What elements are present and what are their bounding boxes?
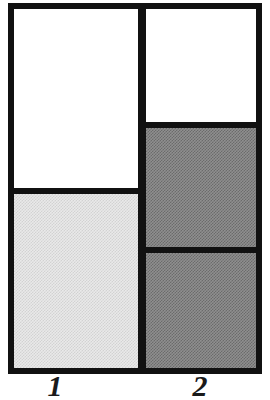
- bar-1-segment-top-white[interactable]: [14, 9, 138, 188]
- plot-area: [14, 9, 256, 368]
- bar-column-2[interactable]: [146, 9, 256, 368]
- bar-2-segment-top-white[interactable]: [146, 9, 256, 122]
- plot-frame: [8, 3, 262, 374]
- x-axis-tick-label-1: 1: [35, 374, 75, 400]
- bar-column-1[interactable]: [14, 9, 138, 368]
- bar-2-segment-bottom-medium-gray[interactable]: [146, 253, 256, 368]
- bar-column-divider: [138, 9, 146, 368]
- x-axis-tick-label-2: 2: [180, 374, 220, 400]
- x-axis-tick-labels: 1 2: [0, 374, 270, 400]
- bar-2-segment-middle-medium-gray[interactable]: [146, 128, 256, 247]
- stacked-bar-chart: 1 2: [0, 0, 270, 400]
- bar-1-segment-bottom-light-gray[interactable]: [14, 194, 138, 368]
